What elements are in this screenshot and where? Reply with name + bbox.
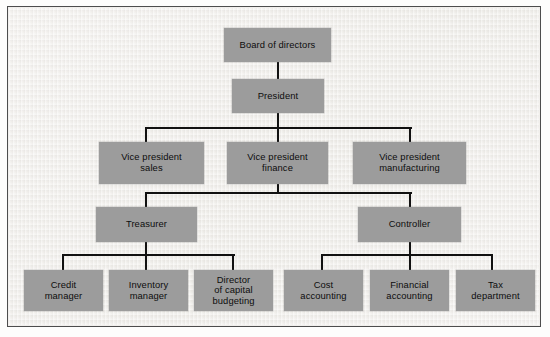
node-financial-accounting[interactable]: Financial accounting — [370, 270, 449, 311]
connector-bus-vp-finance — [277, 127, 279, 142]
node-label: Treasurer — [126, 219, 167, 230]
node-label: Financial accounting — [386, 280, 432, 301]
connector-bus-treasurer — [145, 192, 147, 207]
node-director-of-capital-budgeting[interactable]: Director of capital budgeting — [194, 270, 273, 311]
connector-bus-inventory-manager — [145, 254, 147, 270]
connector-treasurer-controller-bus — [145, 192, 412, 194]
connector-bus-financial-accounting — [409, 254, 411, 270]
node-label: Controller — [389, 219, 431, 230]
node-vice-president-manufacturing[interactable]: Vice president manufacturing — [353, 142, 466, 184]
node-label: Credit manager — [45, 280, 83, 301]
node-label: Vice president sales — [121, 152, 182, 173]
connector-bus-vp-manufacturing — [409, 127, 411, 142]
connector-bus-vp-sales — [145, 127, 147, 142]
org-chart-canvas: Board of directors President Vice presid… — [0, 0, 550, 337]
node-label: Board of directors — [240, 40, 316, 51]
node-label: Cost accounting — [300, 280, 346, 301]
node-president[interactable]: President — [232, 79, 324, 113]
connector-bus-tax-department — [491, 254, 493, 270]
connector-treasurer-children-bus — [62, 254, 235, 256]
node-label: President — [258, 91, 299, 102]
connector-bus-credit-manager — [62, 254, 64, 270]
node-label: Vice president finance — [247, 152, 308, 173]
node-treasurer[interactable]: Treasurer — [96, 207, 197, 242]
node-label: Inventory manager — [129, 280, 168, 301]
node-cost-accounting[interactable]: Cost accounting — [284, 270, 363, 311]
node-vice-president-finance[interactable]: Vice president finance — [227, 142, 328, 184]
node-label: Director of capital budgeting — [212, 275, 254, 307]
node-credit-manager[interactable]: Credit manager — [24, 270, 103, 311]
connector-controller-children-bus — [321, 254, 493, 256]
node-controller[interactable]: Controller — [358, 207, 461, 242]
connector-bus-controller — [409, 192, 411, 207]
node-label: Vice president manufacturing — [379, 152, 440, 173]
connector-bus-director-capital-budgeting — [232, 254, 234, 270]
connector-board-president — [277, 62, 279, 79]
node-label: Tax department — [471, 280, 519, 301]
connector-bus-cost-accounting — [321, 254, 323, 270]
node-tax-department[interactable]: Tax department — [456, 270, 535, 311]
node-board-of-directors[interactable]: Board of directors — [224, 28, 331, 62]
node-inventory-manager[interactable]: Inventory manager — [109, 270, 188, 311]
node-vice-president-sales[interactable]: Vice president sales — [99, 142, 204, 184]
